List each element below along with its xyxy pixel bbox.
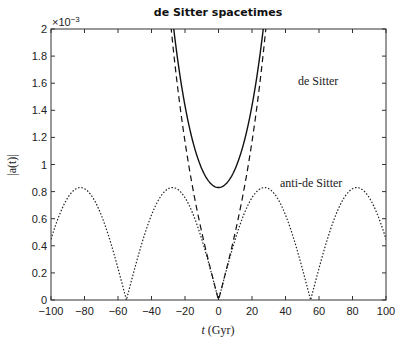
x-tick-label: −60 bbox=[109, 305, 128, 317]
chart: de Sitter spacetimes ×10−3 −100−80−60−40… bbox=[0, 0, 407, 342]
y-tick-label: 1.4 bbox=[32, 104, 47, 116]
x-tick-label: 80 bbox=[346, 305, 358, 317]
y-multiplier: ×10−3 bbox=[52, 15, 80, 28]
x-tick-label: −80 bbox=[75, 305, 94, 317]
y-axis-label: |a(t)| bbox=[5, 154, 19, 175]
x-tick-label: 20 bbox=[246, 305, 258, 317]
x-tick-label: −100 bbox=[39, 305, 64, 317]
x-tick-labels: −100−80−60−40−20020406080100 bbox=[39, 305, 396, 317]
de-sitter-curve bbox=[51, 0, 386, 188]
x-tick-label: −20 bbox=[176, 305, 195, 317]
x-axis-label: t (Gyr) bbox=[202, 323, 235, 337]
x-tick-label: 60 bbox=[313, 305, 325, 317]
plot-frame bbox=[51, 29, 386, 300]
anti-de-sitter-annotation: anti-de Sitter bbox=[280, 176, 342, 190]
x-tick-label: −40 bbox=[142, 305, 161, 317]
chart-title: de Sitter spacetimes bbox=[154, 6, 283, 19]
de-sitter-annotation: de Sitter bbox=[298, 74, 338, 88]
x-tick-label: 100 bbox=[377, 305, 395, 317]
anti-de-sitter-curve bbox=[51, 188, 386, 300]
y-tick-label: 2 bbox=[41, 23, 47, 35]
y-tick-label: 0.6 bbox=[32, 213, 47, 225]
y-tick-label: 1.6 bbox=[32, 77, 47, 89]
svg-text:×10−3: ×10−3 bbox=[52, 15, 80, 28]
x-tick-label: 40 bbox=[279, 305, 291, 317]
y-tick-labels: 00.20.40.60.811.21.41.61.82 bbox=[32, 23, 47, 306]
y-tick-label: 0 bbox=[41, 294, 47, 306]
dashed-curve bbox=[51, 0, 386, 300]
y-tick-label: 1.8 bbox=[32, 50, 47, 62]
y-tick-label: 1 bbox=[41, 159, 47, 171]
y-tick-label: 0.2 bbox=[32, 267, 47, 279]
x-tick-label: 0 bbox=[215, 305, 221, 317]
y-tick-label: 0.8 bbox=[32, 186, 47, 198]
y-tick-label: 0.4 bbox=[32, 240, 47, 252]
y-tick-label: 1.2 bbox=[32, 131, 47, 143]
axis-ticks bbox=[51, 29, 386, 300]
